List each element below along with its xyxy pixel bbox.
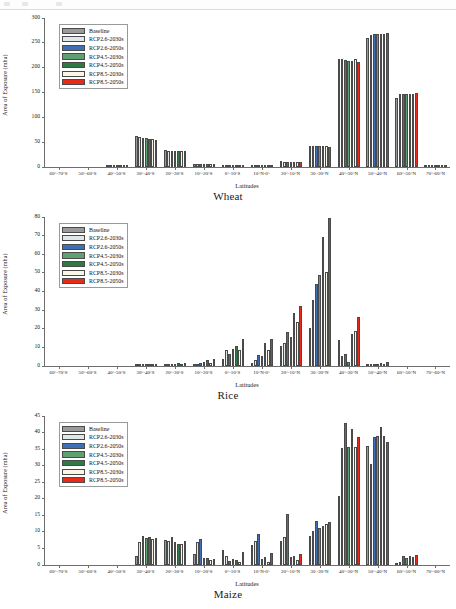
bar	[180, 364, 183, 366]
bar-group	[161, 416, 190, 565]
legend-item[interactable]: RCP8.5-2050s	[62, 277, 124, 286]
bar	[328, 147, 331, 167]
figure-container: Area of Exposure (mha)050100150200250300…	[0, 10, 456, 607]
y-axis-tick-label: 0	[37, 163, 40, 169]
bar	[267, 350, 270, 366]
legend-item[interactable]: RCP8.5-2050s	[62, 78, 124, 87]
legend-label: RCP8.5-2030s	[89, 270, 124, 276]
bar-group	[305, 416, 334, 565]
bar	[242, 165, 245, 167]
y-axis-title-text: Area of Exposure (mha)	[2, 452, 8, 513]
bar	[196, 542, 199, 565]
x-axis-tick-label: 10°N-0°	[253, 171, 269, 176]
legend-item[interactable]: RCP2.6-2030s	[62, 234, 124, 243]
bar	[296, 322, 299, 366]
x-axis-tick-label: 40°-30°N	[339, 370, 358, 375]
legend-item[interactable]: RCP4.5-2030s	[62, 251, 124, 260]
legend-item[interactable]: RCP4.5-2050s	[62, 260, 124, 269]
bar	[174, 151, 177, 168]
legend-item[interactable]: RCP8.5-2050s	[62, 476, 124, 485]
bar	[257, 355, 260, 366]
legend-label: RCP4.5-2030s	[89, 253, 124, 259]
bar	[366, 364, 369, 366]
bar	[309, 328, 312, 366]
bar-group	[247, 217, 276, 366]
x-axis-title: Latitudes	[44, 580, 450, 587]
legend-item[interactable]: Baseline	[62, 425, 124, 434]
bar	[126, 165, 129, 167]
legend-swatch	[62, 45, 85, 51]
bar	[225, 556, 228, 565]
bar	[238, 350, 241, 366]
legend-item[interactable]: RCP2.6-2050s	[62, 243, 124, 252]
legend-swatch	[62, 270, 85, 276]
bar	[283, 537, 286, 565]
bar-group	[421, 18, 450, 167]
x-axis-tick-label: 50°-60°S	[78, 370, 96, 375]
legend-swatch	[62, 469, 85, 475]
y-axis-tick-label: 10	[34, 527, 40, 533]
bar-group	[132, 18, 161, 167]
legend-swatch	[62, 235, 85, 241]
bar	[322, 526, 325, 565]
bar	[354, 447, 357, 565]
x-axis-tick-label: 50°-40°N	[368, 370, 387, 375]
bar	[373, 34, 376, 167]
y-axis-tick-label: 5	[37, 544, 40, 550]
legend-swatch	[62, 79, 85, 85]
x-axis-tick-label: 30°-40°S	[136, 171, 154, 176]
bar	[293, 556, 296, 565]
bar	[264, 343, 267, 366]
bar	[280, 541, 283, 565]
bar	[193, 554, 196, 565]
bar	[261, 356, 264, 366]
legend-item[interactable]: RCP4.5-2050s	[62, 61, 124, 70]
bar	[373, 437, 376, 565]
legend-swatch	[62, 261, 85, 267]
bar	[142, 138, 145, 168]
legend-label: RCP2.6-2050s	[89, 45, 124, 51]
bar-group	[161, 18, 190, 167]
bar	[251, 165, 254, 167]
bar	[177, 363, 180, 366]
y-axis-tick-label: 35	[34, 445, 40, 451]
bar	[209, 363, 212, 366]
legend-item[interactable]: RCP2.6-2030s	[62, 35, 124, 44]
legend-item[interactable]: RCP2.6-2050s	[62, 44, 124, 53]
x-axis-tick-label: 20°-30°S	[165, 171, 183, 176]
bar	[164, 150, 167, 168]
bar	[405, 94, 408, 167]
bar-group	[421, 217, 450, 366]
bar	[235, 346, 238, 366]
bar	[254, 165, 257, 167]
y-axis-title-text: Area of Exposure (mha)	[2, 54, 8, 115]
bar	[267, 562, 270, 565]
legend-item[interactable]: RCP2.6-2030s	[62, 433, 124, 442]
bar	[299, 554, 302, 565]
legend-item[interactable]: Baseline	[62, 226, 124, 235]
bar	[177, 544, 180, 565]
bar	[312, 146, 315, 167]
legend-item[interactable]: RCP4.5-2030s	[62, 52, 124, 61]
bar	[351, 429, 354, 565]
bar	[109, 165, 112, 167]
bar	[328, 218, 331, 366]
bar	[254, 541, 257, 565]
legend-item[interactable]: RCP4.5-2050s	[62, 459, 124, 468]
legend-label: RCP4.5-2030s	[89, 452, 124, 458]
legend-item[interactable]: RCP8.5-2030s	[62, 69, 124, 78]
y-axis-tick-label: 40	[34, 287, 40, 293]
legend-label: RCP4.5-2050s	[89, 261, 124, 267]
legend-item[interactable]: RCP4.5-2030s	[62, 450, 124, 459]
legend-item[interactable]: RCP2.6-2050s	[62, 442, 124, 451]
chart-panel-rice: Area of Exposure (mha)010203040506070806…	[0, 209, 456, 408]
bar-group	[276, 217, 305, 366]
x-axis-tick-label: 50°-40°N	[368, 171, 387, 176]
legend-item[interactable]: Baseline	[62, 27, 124, 36]
bar	[402, 556, 405, 565]
bar	[213, 164, 216, 167]
legend-item[interactable]: RCP8.5-2030s	[62, 268, 124, 277]
bar	[283, 162, 286, 167]
legend-item[interactable]: RCP8.5-2030s	[62, 467, 124, 476]
x-axis-tick-label: 10°N-0°	[253, 569, 269, 574]
